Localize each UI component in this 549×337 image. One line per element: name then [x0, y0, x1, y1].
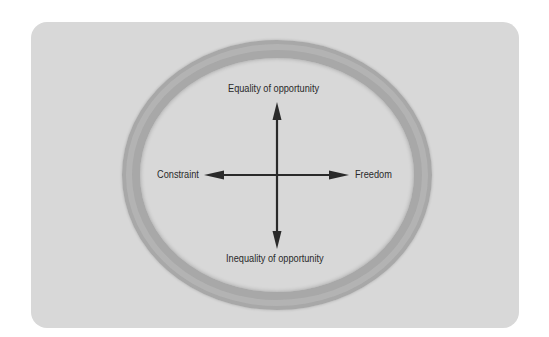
axes-arrows — [0, 0, 549, 337]
arrow-down-icon — [273, 231, 282, 249]
arrow-up-icon — [273, 102, 282, 120]
arrow-left-icon — [204, 171, 224, 180]
label-freedom: Freedom — [355, 169, 392, 180]
label-constraint: Constraint — [157, 169, 199, 180]
label-inequality-of-opportunity: Inequality of opportunity — [226, 253, 324, 264]
label-equality-of-opportunity: Equality of opportunity — [228, 83, 319, 94]
arrow-right-icon — [329, 171, 349, 180]
